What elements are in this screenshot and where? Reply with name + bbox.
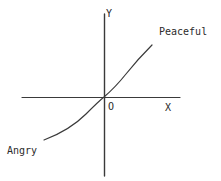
curve-label-peaceful: Peaceful [159, 26, 207, 37]
emotion-curve [44, 45, 152, 140]
x-axis-label: X [165, 102, 171, 113]
y-axis-label: Y [106, 8, 112, 19]
origin-label: O [108, 101, 114, 112]
emotion-sigmoid-figure: Y X O Peaceful Angry [0, 0, 221, 181]
curve-label-angry: Angry [7, 145, 37, 156]
